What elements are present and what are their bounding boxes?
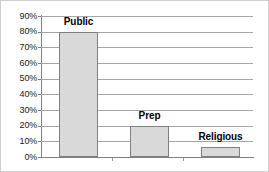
y-tick-label-0: 0% (3, 153, 37, 162)
y-tick-label-90: 90% (3, 12, 37, 21)
y-axis-tick-labels: 90% 80% 70% 60% 50% 40% 30% 20% 10% 0% (1, 1, 37, 172)
bar-label-public: Public (39, 16, 118, 27)
bar-prep (130, 126, 169, 157)
y-tick-label-50: 50% (3, 74, 37, 83)
y-tick-label-80: 80% (3, 27, 37, 36)
bar-public (59, 32, 98, 157)
bar-label-religious: Religious (181, 131, 260, 142)
x-tick-mark-1 (112, 158, 113, 161)
bar-label-prep: Prep (110, 110, 189, 121)
y-tick-label-60: 60% (3, 59, 37, 68)
y-tick-label-10: 10% (3, 137, 37, 146)
y-tick-label-20: 20% (3, 121, 37, 130)
y-tick-label-30: 30% (3, 106, 37, 115)
y-tick-label-40: 40% (3, 90, 37, 99)
bar-religious (201, 147, 240, 157)
x-axis-line (41, 157, 254, 158)
x-tick-mark-2 (183, 158, 184, 161)
y-tick-label-70: 70% (3, 43, 37, 52)
bar-chart: 90% 80% 70% 60% 50% 40% 30% 20% 10% 0% P… (0, 0, 269, 172)
